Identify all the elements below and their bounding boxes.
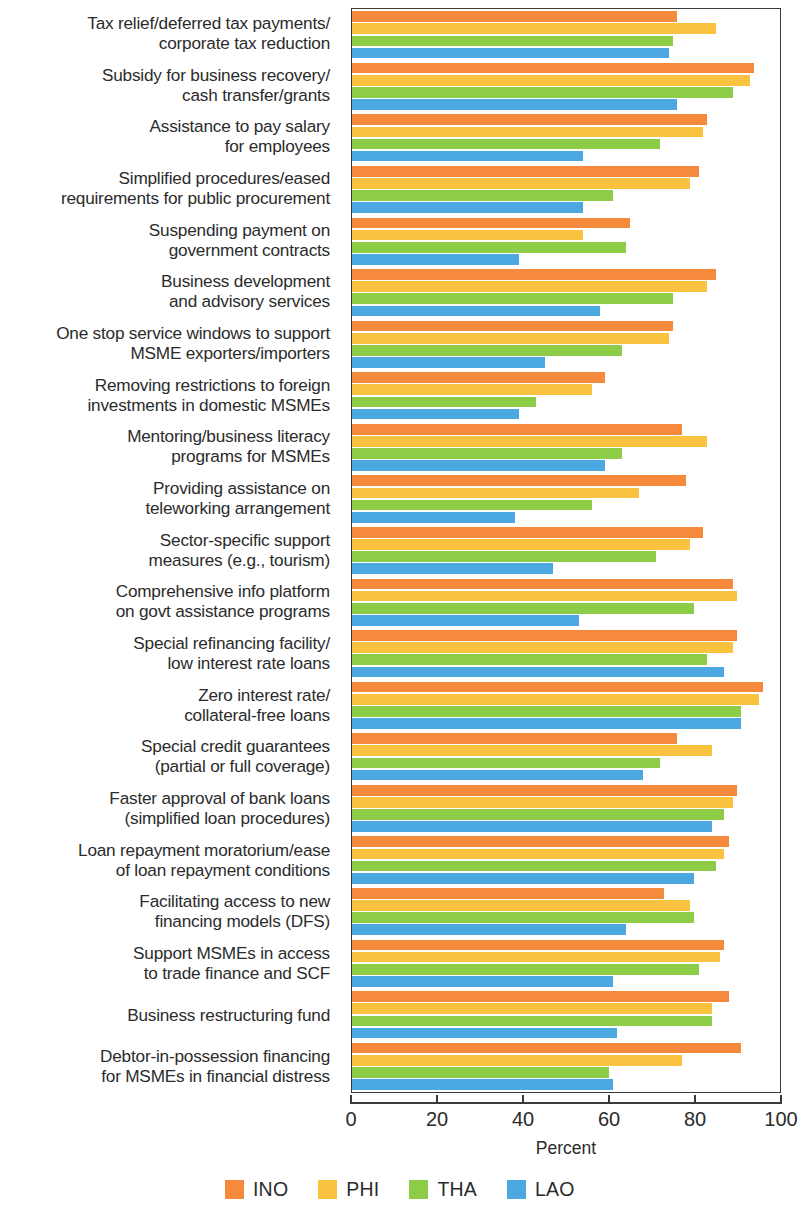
bar-phi bbox=[352, 900, 690, 911]
bar-tha bbox=[352, 1016, 712, 1027]
category-label: Business development and advisory servic… bbox=[0, 266, 340, 318]
bar-group bbox=[352, 576, 780, 628]
bar-group bbox=[352, 267, 780, 319]
bar-ino bbox=[352, 991, 729, 1002]
bar-row bbox=[352, 887, 780, 899]
bar-row bbox=[352, 848, 780, 860]
bar-ino bbox=[352, 372, 605, 383]
legend-item-lao[interactable]: LAO bbox=[507, 1178, 575, 1201]
bar-group bbox=[352, 525, 780, 577]
legend-label: THA bbox=[437, 1178, 477, 1201]
category-label: Loan repayment moratorium/ease of loan r… bbox=[0, 835, 340, 887]
bar-group bbox=[352, 834, 780, 886]
bar-group bbox=[352, 318, 780, 370]
bar-lao bbox=[352, 615, 579, 626]
bar-row bbox=[352, 912, 780, 924]
bar-tha bbox=[352, 397, 536, 408]
bar-row bbox=[352, 629, 780, 641]
legend-item-tha[interactable]: THA bbox=[409, 1178, 477, 1201]
category-label: One stop service windows to support MSME… bbox=[0, 318, 340, 370]
bar-tha bbox=[352, 345, 622, 356]
bar-group bbox=[352, 215, 780, 267]
bar-row bbox=[352, 733, 780, 745]
bar-row bbox=[352, 74, 780, 86]
bar-ino bbox=[352, 475, 686, 486]
bar-tha bbox=[352, 36, 673, 47]
bar-row bbox=[352, 11, 780, 23]
bar-row bbox=[352, 268, 780, 280]
bar-row bbox=[352, 150, 780, 162]
bar-row bbox=[352, 784, 780, 796]
bar-group bbox=[352, 731, 780, 783]
legend-item-ino[interactable]: INO bbox=[225, 1178, 288, 1201]
category-label-column: Tax relief/deferred tax payments/ corpor… bbox=[0, 8, 340, 1093]
bar-phi bbox=[352, 75, 750, 86]
bar-phi bbox=[352, 23, 716, 34]
bar-phi bbox=[352, 745, 712, 756]
bar-row bbox=[352, 757, 780, 769]
bar-phi bbox=[352, 178, 690, 189]
category-label: Debtor-in-possession financing for MSMEs… bbox=[0, 1041, 340, 1093]
bar-row bbox=[352, 1078, 780, 1090]
bar-row bbox=[352, 460, 780, 472]
bar-tha bbox=[352, 706, 741, 717]
bar-phi bbox=[352, 849, 724, 860]
category-label: Assistance to pay salary for employees bbox=[0, 111, 340, 163]
bar-row bbox=[352, 35, 780, 47]
bar-row bbox=[352, 281, 780, 293]
bar-lao bbox=[352, 202, 583, 213]
category-label: Mentoring/business literacy programs for… bbox=[0, 421, 340, 473]
bar-tha bbox=[352, 809, 724, 820]
bar-row bbox=[352, 217, 780, 229]
bar-tha bbox=[352, 861, 716, 872]
bar-row bbox=[352, 666, 780, 678]
bar-row bbox=[352, 202, 780, 214]
bar-row bbox=[352, 241, 780, 253]
bar-tha bbox=[352, 758, 660, 769]
bar-row bbox=[352, 602, 780, 614]
bar-ino bbox=[352, 579, 733, 590]
bar-group bbox=[352, 886, 780, 938]
bar-ino bbox=[352, 63, 754, 74]
bar-row bbox=[352, 590, 780, 602]
bar-group bbox=[352, 164, 780, 216]
bar-row bbox=[352, 499, 780, 511]
bar-tha bbox=[352, 603, 694, 614]
bar-row bbox=[352, 769, 780, 781]
bar-row bbox=[352, 872, 780, 884]
bar-lao bbox=[352, 460, 605, 471]
legend-swatch-icon bbox=[507, 1180, 526, 1199]
bar-row bbox=[352, 332, 780, 344]
bar-row bbox=[352, 693, 780, 705]
category-label: Faster approval of bank loans (simplifie… bbox=[0, 783, 340, 835]
x-tick bbox=[780, 1095, 782, 1104]
bar-row bbox=[352, 1003, 780, 1015]
category-label: Sector-specific support measures (e.g., … bbox=[0, 525, 340, 577]
bar-lao bbox=[352, 924, 626, 935]
category-label: Tax relief/deferred tax payments/ corpor… bbox=[0, 8, 340, 60]
x-tick-label: 20 bbox=[426, 1108, 448, 1131]
category-label: Special refinancing facility/ low intere… bbox=[0, 628, 340, 680]
bar-row bbox=[352, 447, 780, 459]
legend-item-phi[interactable]: PHI bbox=[318, 1178, 379, 1201]
category-label: Comprehensive info platform on govt assi… bbox=[0, 576, 340, 628]
bar-group bbox=[352, 9, 780, 61]
bar-row bbox=[352, 654, 780, 666]
x-tick-label: 80 bbox=[684, 1108, 706, 1131]
bar-row bbox=[352, 165, 780, 177]
bar-group bbox=[352, 937, 780, 989]
legend: INOPHITHALAO bbox=[225, 1178, 625, 1201]
bar-row bbox=[352, 1066, 780, 1078]
legend-swatch-icon bbox=[225, 1180, 244, 1199]
x-tick-label: 60 bbox=[598, 1108, 620, 1131]
bar-phi bbox=[352, 127, 703, 138]
plot-area bbox=[351, 8, 781, 1093]
bar-row bbox=[352, 396, 780, 408]
bar-phi bbox=[352, 436, 707, 447]
bar-lao bbox=[352, 409, 519, 420]
bar-lao bbox=[352, 99, 677, 110]
bar-row bbox=[352, 705, 780, 717]
bar-row bbox=[352, 114, 780, 126]
category-label: Facilitating access to new financing mod… bbox=[0, 886, 340, 938]
bar-row bbox=[352, 229, 780, 241]
